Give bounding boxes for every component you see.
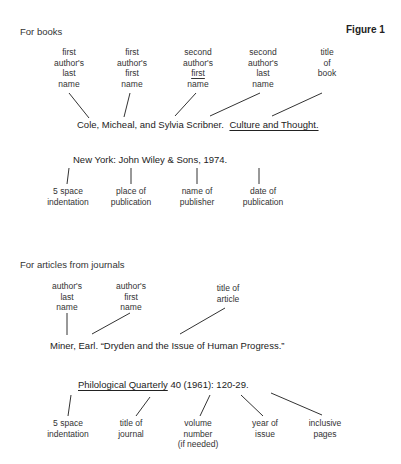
journal-volume-year-pages: 40 (1961): 120-29. (168, 379, 249, 390)
label-5-space-indentation: 5 space indentation (40, 186, 96, 207)
label-title-of-journal: title of journal (106, 418, 156, 439)
journal-citation-line-2: Philological Quarterly 40 (1961): 120-29… (78, 379, 249, 390)
label-author-last-name: author's last name (42, 281, 92, 313)
label-year-of-issue: year of issue (240, 418, 290, 439)
label-second-author-last-name: second author's last name (238, 47, 288, 89)
label-author-first-name: author's first name (106, 281, 156, 313)
label-first-author-first-name: first author's first name (107, 47, 157, 89)
label-name-of-publisher: name of publisher (169, 186, 225, 207)
book-citation-line-2: New York: John Wiley & Sons, 1974. (73, 154, 227, 165)
label-date-of-publication: date of publication (235, 186, 291, 207)
journal-title: Philological Quarterly (78, 379, 168, 390)
label-place-of-publication: place of publication (103, 186, 159, 207)
section-title-books: For books (20, 26, 62, 37)
label-title-of-article: title of article (203, 283, 253, 304)
label-volume-number: volume number (if needed) (170, 418, 226, 450)
label-first-author-last-name: first author's last name (44, 47, 94, 89)
label-journal-5-space-indentation: 5 space indentation (40, 418, 96, 439)
figure-label: Figure 1 (346, 24, 385, 35)
book-authors: Cole, Micheal, and Sylvia Scribner. (77, 119, 224, 130)
label-inclusive-pages: inclusive pages (300, 418, 350, 439)
book-citation-line-1: Cole, Micheal, and Sylvia Scribner. Cult… (77, 119, 319, 130)
journal-citation-line-1: Miner, Earl. “Dryden and the Issue of Hu… (50, 340, 284, 351)
label-title-of-book: title of book (302, 47, 352, 79)
label-second-author-first-name: second author's first name (173, 47, 223, 89)
section-title-journals: For articles from journals (20, 259, 125, 270)
book-title: Culture and Thought. (229, 119, 318, 130)
